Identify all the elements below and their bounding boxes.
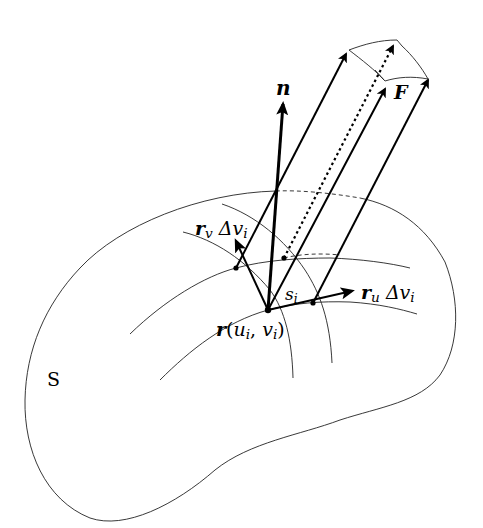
- point-label: r(ui, vi): [216, 320, 285, 342]
- rv-var-sub: i: [243, 225, 247, 241]
- surface-label: S: [47, 370, 60, 389]
- point-vec: r: [216, 318, 226, 340]
- patch-edge-hidden: [284, 254, 340, 258]
- v-curve-left-outer: [183, 232, 293, 378]
- ru-vec-sub: u: [371, 289, 380, 305]
- rv-delta-label: rv Δvi: [195, 219, 248, 241]
- field-label: F: [394, 83, 408, 102]
- point-u: u: [233, 318, 245, 340]
- figure-canvas: [0, 0, 483, 528]
- patch-label: si: [285, 286, 298, 305]
- normal-arrow: [268, 104, 283, 310]
- point-uv-corner: [281, 255, 286, 260]
- u-curve-middle: [160, 302, 417, 380]
- patch-sub: i: [294, 292, 298, 306]
- ru-var: v: [400, 281, 411, 303]
- f-arrow-left: [236, 54, 346, 268]
- normal-label: n: [276, 78, 291, 98]
- surface-boundary-hidden: [276, 191, 360, 198]
- base-point: [265, 307, 271, 313]
- point-v: v: [262, 318, 273, 340]
- surface-integral-figure: n F rv Δvi ru Δvi si r(ui, vi) S: [0, 0, 483, 528]
- ru-var-sub: i: [410, 289, 414, 305]
- point-v-corner: [233, 265, 238, 270]
- f-arrow-back-dotted: [284, 46, 393, 258]
- patch-base: s: [285, 284, 294, 304]
- ru-vec: r: [361, 281, 371, 303]
- point-u-corner: [310, 300, 315, 305]
- rv-var: v: [233, 217, 244, 239]
- ru-delta-label: ru Δvi: [361, 283, 415, 305]
- rv-delta-arrow: [236, 241, 268, 310]
- cap-bottom-edge: [349, 50, 428, 81]
- point-comma: ,: [250, 318, 262, 340]
- rv-delta: Δ: [219, 217, 233, 239]
- ru-delta: Δ: [386, 281, 400, 303]
- rv-vec: r: [195, 217, 205, 239]
- ru-delta-arrow: [268, 291, 352, 310]
- rv-vec-sub: v: [205, 225, 213, 241]
- point-close: ): [277, 318, 284, 340]
